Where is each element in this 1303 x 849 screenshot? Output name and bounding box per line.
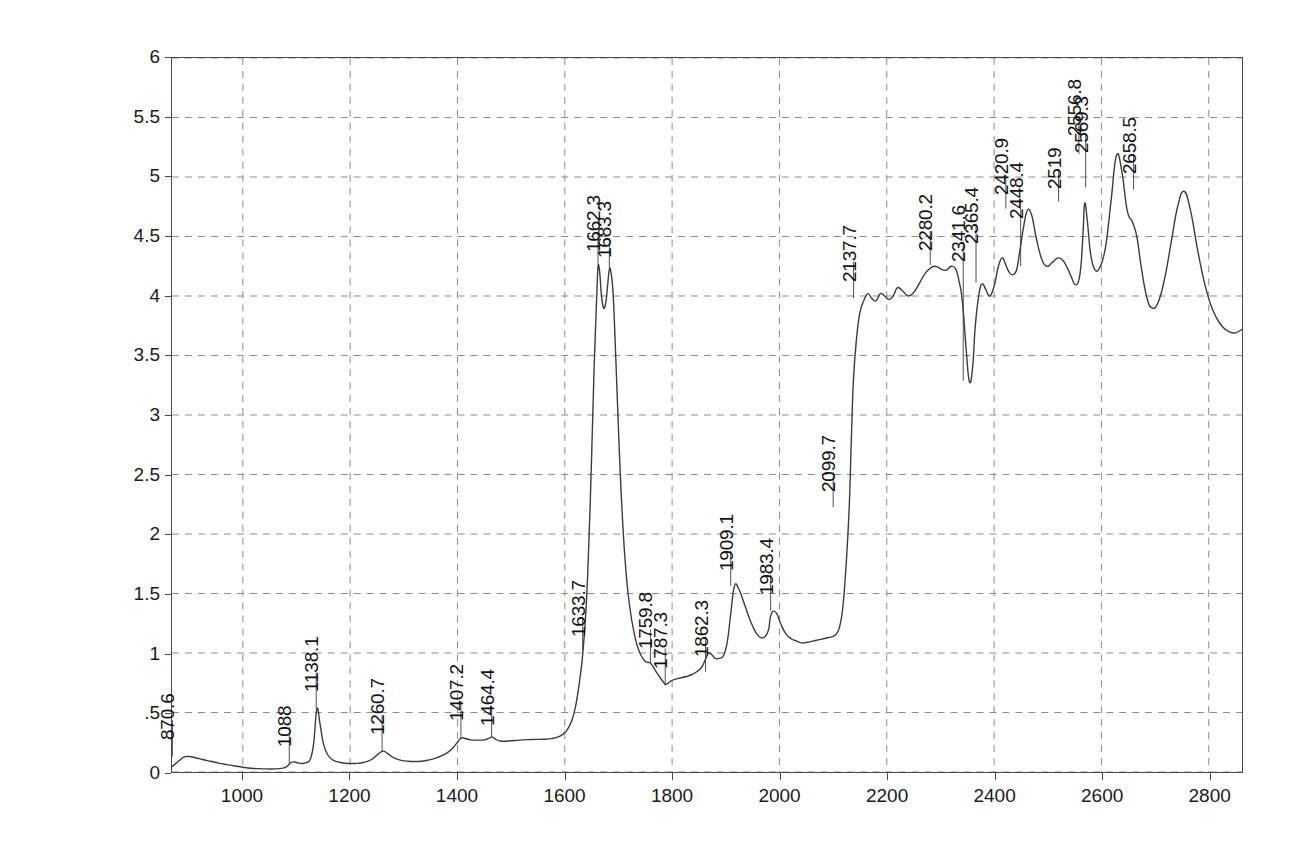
y-tick-label: 5 [149,165,160,187]
y-tick-label: 1 [149,643,160,665]
y-tick-label: 4.5 [134,225,160,247]
x-tick-mark [672,773,673,780]
spectrum-chart: 0.511.522.533.544.555.56 100012001400160… [0,0,1303,849]
y-tick-label: 2.5 [134,464,160,486]
peak-label: 1633.7 [568,581,590,638]
x-tick-mark [457,773,458,780]
peak-label: 2099.7 [818,435,840,492]
y-tick-label: 3.5 [134,344,160,366]
plot-area [171,57,1243,773]
peak-label: 1787.3 [650,612,672,669]
peak-label: 1464.4 [477,669,499,726]
y-tick-label: 0 [149,762,160,784]
x-tick-label: 1600 [543,785,585,807]
peak-label: 2280.2 [915,194,937,251]
peak-label: 2658.5 [1119,118,1141,175]
x-tick-mark [995,773,996,780]
peak-label: 2569.3 [1071,96,1093,153]
x-tick-mark [1210,773,1211,780]
x-tick-mark [887,773,888,780]
y-tick-label: 1.5 [134,583,160,605]
peak-label: 1983.4 [756,538,778,595]
y-tick-label: 4 [149,285,160,307]
peak-label: 2365.4 [961,187,983,244]
spectrum-curve [172,58,1242,772]
x-tick-label: 2200 [866,785,908,807]
peak-label: 1138.1 [301,637,323,693]
peak-label: 2137.7 [839,225,861,282]
y-tick-label: 2 [149,523,160,545]
x-tick-mark [565,773,566,780]
x-tick-label: 2000 [758,785,800,807]
peak-label: 1088 [274,706,296,747]
y-tick-label: 5.5 [134,106,160,128]
peak-label: 1407.2 [446,664,468,721]
x-tick-label: 2800 [1189,785,1231,807]
x-tick-mark [242,773,243,780]
y-tick-mark [165,773,171,774]
x-tick-label: 1200 [328,785,370,807]
x-tick-label: 2600 [1081,785,1123,807]
peak-label: 1909.1 [716,514,738,571]
x-tick-label: 1800 [651,785,693,807]
peak-label: 1862.3 [691,600,713,657]
peak-label: 2448.4 [1006,162,1028,219]
x-tick-label: 1000 [221,785,263,807]
peak-label: 870.6 [157,694,179,741]
y-tick-label: 6 [149,46,160,68]
peak-label: 2519 [1044,147,1066,188]
peak-label: 1683.3 [594,201,616,258]
peak-label: 1260.7 [367,678,389,735]
x-tick-mark [780,773,781,780]
x-tick-label: 1400 [436,785,478,807]
y-tick-label: 3 [149,404,160,426]
x-tick-mark [349,773,350,780]
x-tick-mark [1102,773,1103,780]
spectrum-line [172,154,1242,769]
x-tick-label: 2400 [973,785,1015,807]
